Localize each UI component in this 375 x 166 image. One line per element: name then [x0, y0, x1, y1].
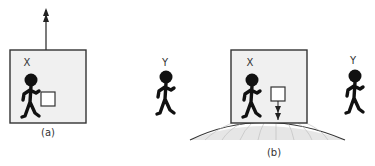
panel-a: X (a) — [10, 8, 86, 138]
caption-b: (b) — [267, 147, 281, 158]
observer-label-y-left: Y — [161, 57, 169, 68]
person-label-x-b: X — [247, 57, 254, 68]
box-object-b — [271, 87, 285, 101]
elevator-box-b — [231, 50, 307, 123]
observer-y-figure-right — [346, 70, 363, 114]
panel-b: X (b) Y Y — [157, 50, 363, 158]
person-label-x-a: X — [24, 57, 31, 68]
figure-canvas: X (a) X (b) Y Y — [0, 0, 375, 166]
observer-label-y-right: Y — [349, 55, 357, 66]
observer-y-figure-left — [157, 71, 174, 115]
box-object-a — [41, 92, 55, 106]
caption-a: (a) — [41, 127, 55, 138]
elevator-box-a — [10, 50, 86, 123]
upward-double-arrow-icon — [43, 8, 49, 22]
